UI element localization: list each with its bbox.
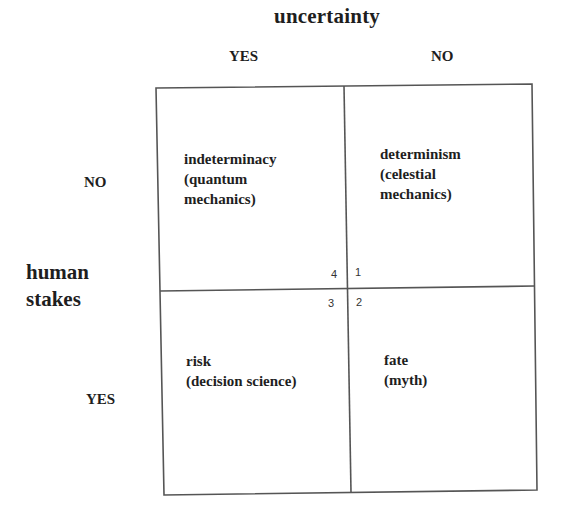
cell-number-1: 1 — [355, 266, 361, 278]
cell-determinism: determinism (celestial mechanics) — [380, 144, 461, 204]
cell-fate: fate (myth) — [384, 350, 427, 390]
cell-number-3: 3 — [328, 297, 334, 309]
cell-number-2: 2 — [356, 296, 362, 308]
quadrant-grid — [0, 0, 561, 513]
cell-risk: risk (decision science) — [186, 351, 296, 391]
cell-number-4: 4 — [331, 268, 337, 280]
cell-indeterminacy: indeterminacy (quantum mechanics) — [184, 149, 276, 209]
